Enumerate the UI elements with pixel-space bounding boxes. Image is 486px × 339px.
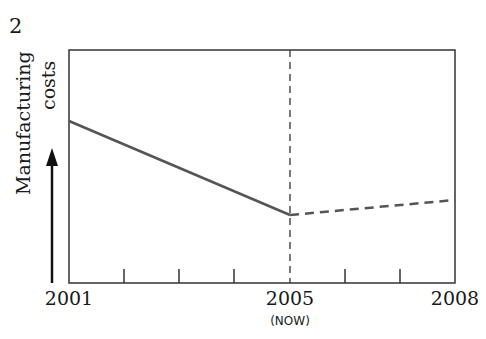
series-projected bbox=[290, 200, 455, 215]
plot-frame bbox=[69, 50, 455, 283]
x-ticks bbox=[124, 269, 400, 283]
x-tick-label-2005: 2005 bbox=[266, 287, 314, 309]
x-tick-label-2001: 2001 bbox=[45, 287, 93, 309]
now-label: (NOW) bbox=[270, 314, 310, 328]
y-axis-arrow-icon bbox=[46, 148, 58, 283]
series-actual bbox=[69, 121, 290, 215]
x-tick-label-2008: 2008 bbox=[431, 287, 479, 309]
